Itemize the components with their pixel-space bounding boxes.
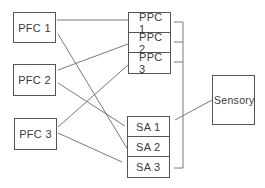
pfc-3-label: PFC 3 bbox=[19, 128, 52, 140]
ppc-2-node: PPC 2 bbox=[129, 33, 170, 53]
edge-pfc3-sa3 bbox=[58, 133, 122, 162]
sa-2-label: SA 2 bbox=[136, 141, 160, 153]
sensory-node: Sensory bbox=[212, 75, 255, 125]
sensory-label: Sensory bbox=[214, 94, 255, 106]
edge-pfc3-ppc3 bbox=[58, 65, 128, 127]
bracket-bus bbox=[174, 22, 183, 168]
ppc-3-label: PPC 3 bbox=[139, 51, 170, 75]
ppc-stack: PPC 1 PPC 2 PPC 3 bbox=[128, 12, 171, 74]
sa-2-node: SA 2 bbox=[128, 137, 169, 157]
edge-pfc1-sa2 bbox=[58, 34, 128, 150]
pfc-1-node: PFC 1 bbox=[13, 12, 56, 43]
sa-3-node: SA 3 bbox=[128, 157, 169, 177]
pfc-2-node: PFC 2 bbox=[13, 64, 56, 96]
pfc-1-label: PFC 1 bbox=[18, 22, 51, 34]
sa-stack: SA 1 SA 2 SA 3 bbox=[127, 116, 170, 178]
ppc-3-node: PPC 3 bbox=[129, 53, 170, 73]
pfc-2-label: PFC 2 bbox=[18, 74, 51, 86]
edge-sensory-sa1 bbox=[175, 100, 212, 120]
sa-1-node: SA 1 bbox=[128, 117, 169, 137]
pfc-3-node: PFC 3 bbox=[14, 118, 57, 150]
sa-3-label: SA 3 bbox=[136, 161, 160, 173]
sa-1-label: SA 1 bbox=[136, 121, 160, 133]
edge-pfc2-ppc2 bbox=[58, 44, 128, 70]
